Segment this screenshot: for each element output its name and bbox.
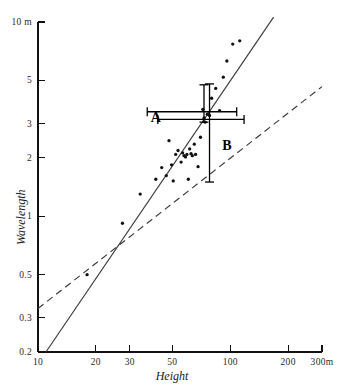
trend-lines [38, 17, 322, 352]
x-tick-label: 300m [311, 357, 334, 367]
data-point [238, 39, 241, 42]
chart-figure: 10 m53210.50.30.2 10203050100200300m AB … [0, 0, 346, 392]
data-point [194, 153, 197, 156]
data-point [210, 97, 213, 100]
data-point [191, 154, 194, 157]
error-bar-b [158, 84, 244, 182]
x-tick-label: 30 [125, 357, 135, 367]
fit-line-solid [46, 17, 274, 352]
x-tick-label: 200 [281, 357, 296, 367]
data-point [181, 151, 184, 154]
data-point [121, 222, 124, 225]
y-tick-label: 0.3 [0, 313, 32, 323]
data-point [187, 178, 190, 181]
data-point [165, 174, 168, 177]
data-point [167, 139, 170, 142]
data-point [225, 59, 228, 62]
data-point [85, 273, 88, 276]
x-tick-label: 50 [167, 357, 177, 367]
x-tick-label: 10 [33, 357, 43, 367]
data-point [188, 147, 191, 150]
data-point [193, 143, 196, 146]
y-tick-label: 10 m [0, 17, 32, 27]
scatter-plot-canvas [0, 0, 346, 392]
data-points [85, 39, 241, 276]
data-point [139, 192, 142, 195]
annotation-label-a: A [151, 110, 161, 126]
data-point [231, 42, 234, 45]
data-point [176, 149, 179, 152]
data-point [222, 76, 225, 79]
x-tick-label: 20 [91, 357, 101, 367]
x-axis-title: Height [156, 369, 189, 384]
data-point [170, 163, 173, 166]
data-point [185, 153, 188, 156]
y-tick-label: 5 [0, 75, 32, 85]
y-tick-label: 0.2 [0, 347, 32, 357]
data-point [214, 87, 217, 90]
y-tick-label: 3 [0, 119, 32, 129]
data-point [172, 179, 175, 182]
x-tick-label: 100 [223, 357, 238, 367]
data-point [160, 166, 163, 169]
data-point [154, 178, 157, 181]
data-point [179, 160, 182, 163]
data-point [174, 153, 177, 156]
data-point [196, 165, 199, 168]
y-tick-label: 2 [0, 153, 32, 163]
y-tick-label: 0.5 [0, 270, 32, 280]
annotation-label-b: B [222, 138, 231, 154]
y-axis-title: Wavelength [14, 189, 29, 245]
axes [38, 22, 322, 352]
data-point [199, 136, 202, 139]
